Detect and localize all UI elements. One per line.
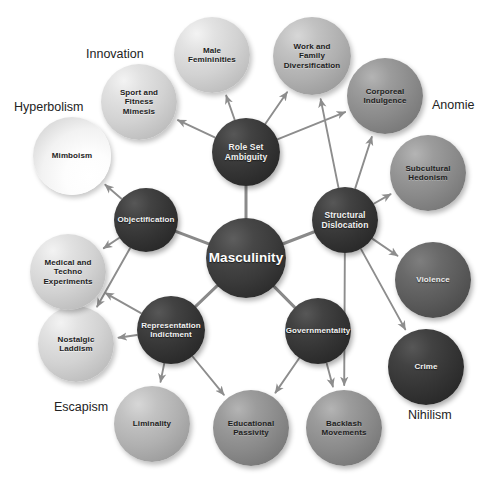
node-violence[interactable]: Violence [395,242,471,318]
edge-masculinity-to-governmentality [274,287,294,307]
node-label-governmentality: Governmentality [282,326,355,335]
node-governmentality[interactable]: Governmentality [285,298,351,364]
concept-map-figure: MasculinityRole SetAmbiguityStructuralDi… [0,0,493,478]
edge-structural-to-violence [373,239,398,256]
node-label-corporeal: CorporealIndulgence [359,87,410,106]
edge-representation-to-nostalgic [119,335,137,338]
node-label-backlash: BacklashMovements [318,419,371,438]
node-educational[interactable]: EducationalPassivity [213,390,289,466]
node-label-masculinity: Masculinity [205,250,288,266]
node-label-educational: EducationalPassivity [224,419,278,438]
node-role-set[interactable]: Role SetAmbiguity [212,118,280,186]
edge-role-set-to-work-family [266,92,288,123]
edge-masculinity-to-objectify [176,232,208,244]
edge-role-set-to-corporeal [278,112,345,139]
edge-role-set-to-sport [178,120,215,137]
node-medical[interactable]: Medical andTechnoExperiments [30,234,106,310]
node-label-work-family: Work andFamilyDiversification [280,42,345,70]
node-work-family[interactable]: Work andFamilyDiversification [273,17,351,95]
node-liminality[interactable]: Liminality [114,386,190,462]
node-label-liminality: Liminality [129,419,175,428]
node-nostalgic[interactable]: NostalgicLaddism [38,306,114,382]
caption-innovation: Innovation [86,47,144,61]
node-corporeal[interactable]: CorporealIndulgence [347,58,423,134]
edge-representation-to-liminality [161,364,165,382]
node-objectify[interactable]: Objectification [114,188,178,252]
edge-role-set-to-male-fem [226,96,234,120]
edge-masculinity-to-representation [196,286,217,306]
node-sport[interactable]: Sport andFitnessMimesis [101,64,177,140]
node-label-medical: Medical andTechnoExperiments [39,258,96,286]
node-label-violence: Violence [412,275,454,284]
caption-hyperbolism: Hyperbolism [14,100,83,114]
edge-objectify-to-medical [104,238,119,248]
edge-governmentality-to-backlash [327,363,333,386]
node-label-crime: Crime [410,362,441,371]
node-subcultural[interactable]: SubculturalHedonism [390,135,466,211]
node-mimboism[interactable]: Mimboism [33,117,111,195]
edge-structural-to-work-family [321,99,339,187]
node-representation[interactable]: RepresentationIndictment [137,296,205,364]
node-structural[interactable]: StructuralDislocation [312,187,378,253]
caption-nihilism: Nihilism [408,408,452,422]
node-label-role-set: Role SetAmbiguity [221,142,271,162]
node-backlash[interactable]: BacklashMovements [306,390,382,466]
edge-masculinity-to-structural [284,232,314,243]
edge-representation-to-medical [105,293,140,313]
node-label-subcultural: SubculturalHedonism [401,164,454,183]
edge-structural-to-subcultural [374,194,390,203]
node-label-sport: Sport andFitnessMimesis [116,88,162,116]
node-masculinity[interactable]: Masculinity [206,218,286,298]
caption-escapism: Escapism [54,400,108,414]
edge-representation-to-educational [193,357,224,395]
node-label-structural: StructuralDislocation [318,210,373,230]
node-label-representation: RepresentationIndictment [137,321,205,340]
edge-structural-to-corporeal [355,137,372,188]
caption-anomie: Anomie [432,98,474,112]
node-male-fem[interactable]: MaleFemininities [174,17,250,93]
node-label-nostalgic: NostalgicLaddism [54,335,99,354]
edge-governmentality-to-educational [275,359,299,393]
edge-objectify-to-mimboism [105,185,121,199]
node-label-mimboism: Mimboism [48,151,96,160]
node-crime[interactable]: Crime [388,329,464,405]
node-label-male-fem: MaleFemininities [184,46,240,65]
node-label-objectify: Objectification [113,215,178,224]
